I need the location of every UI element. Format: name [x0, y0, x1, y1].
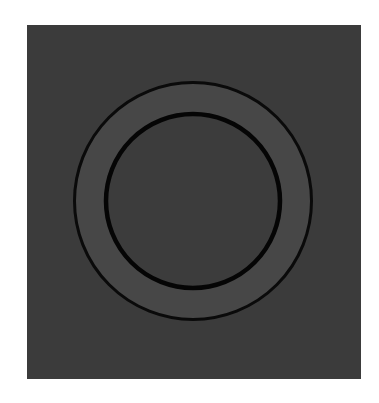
inner-disc — [106, 114, 280, 288]
concentric-ring-diagram — [0, 0, 379, 403]
